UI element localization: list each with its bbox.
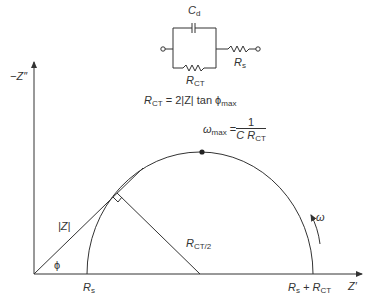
resistor-ct-label: RCT (186, 74, 205, 88)
y-axis-label: −Z″ (10, 70, 27, 82)
resistor-rct (183, 65, 204, 71)
radius-label: RCT/2 (186, 237, 211, 251)
capacitor-label: Cd (188, 4, 200, 18)
omega-max-point (199, 149, 204, 154)
modulus-z-line (34, 168, 143, 274)
omega-arrow-label: ω (316, 211, 325, 223)
modulus-z-label: |Z| (58, 220, 70, 232)
rs-tick-label: Rs (83, 281, 95, 295)
radius-line (117, 193, 200, 274)
rct-equation: RCT = 2|Z| tan ϕmax (144, 94, 236, 108)
phi-angle-label: ϕ (54, 259, 60, 271)
x-axis-label: Z′ (348, 280, 357, 292)
right-angle-marker (113, 197, 122, 202)
resistor-s-label: Rs (234, 56, 246, 70)
impedance-arc (87, 152, 313, 274)
nyquist-diagram (0, 0, 373, 301)
omega-max-label: ωmax =1C RCT (203, 116, 266, 145)
resistor-rs (228, 46, 249, 52)
terminal-right (256, 47, 260, 51)
rs-plus-rct-tick-label: Rs + RCT (288, 281, 331, 295)
terminal-left (161, 47, 165, 51)
